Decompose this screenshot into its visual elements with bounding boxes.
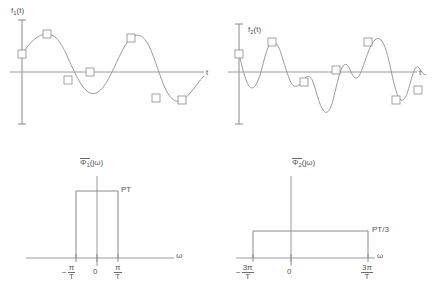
- f1-sample-marker: [43, 30, 51, 38]
- phi2-pos-den: T: [365, 273, 370, 281]
- phi2-spectrum: Φ2(jω) ω PT/3 − 3π T 0 3π T: [220, 150, 439, 298]
- phi1-canvas: [0, 150, 220, 298]
- phi1-tick-label-negative: − π T: [62, 264, 75, 281]
- f2-sample-marker: [392, 96, 400, 104]
- f1-sample-marker: [178, 96, 186, 104]
- phi2-tick-label-zero: 0: [287, 267, 291, 276]
- phi1-amplitude-label: PT: [121, 186, 131, 194]
- f2-canvas: [220, 0, 439, 150]
- phi2-amplitude-label: PT/3: [372, 226, 389, 234]
- f2-sample-marker: [414, 86, 422, 94]
- f2-sample-marker: [332, 66, 340, 74]
- f1-axis-label: f1(t): [11, 7, 24, 16]
- phi2-tick-label-negative: − 3π T: [236, 264, 254, 281]
- phi1-omega-axis-label: ω: [176, 252, 182, 260]
- phi2-title: Φ2(jω): [292, 158, 315, 168]
- f1-sample-marker: [64, 76, 72, 84]
- f1-sample-marker: [86, 68, 94, 76]
- f2-sample-marker: [235, 50, 243, 58]
- phi1-title: Φ1(jω): [80, 158, 103, 168]
- phi1-tick-label-zero: 0: [93, 267, 97, 276]
- f1-sample-marker: [18, 50, 26, 58]
- phi1-pos-den: T: [115, 273, 120, 281]
- f1-canvas: [0, 0, 220, 150]
- f1-curve: [22, 34, 204, 102]
- phi2-rect: [253, 231, 368, 258]
- f2-time-plot: f2(t) t: [220, 0, 439, 150]
- f2-sample-marker: [364, 38, 372, 46]
- phi1-neg-den: T: [69, 273, 74, 281]
- phi2-neg-den: T: [245, 273, 250, 281]
- f2-sample-marker: [268, 38, 276, 46]
- phi2-omega-axis-label: ω: [377, 252, 383, 260]
- f2-t-axis-label: t: [419, 69, 421, 77]
- f2-axis-label: f2(t): [248, 26, 261, 35]
- phi1-tick-label-positive: π T: [114, 264, 122, 281]
- f1-time-plot: f1(t) t: [0, 0, 220, 150]
- phi2-tick-label-positive: 3π T: [361, 264, 373, 281]
- f1-t-axis-label: t: [206, 69, 208, 77]
- f2-sample-marker: [300, 78, 308, 86]
- f1-sample-marker: [127, 34, 135, 42]
- f1-sample-marker: [152, 94, 160, 102]
- phi1-spectrum: Φ1(jω) ω PT − π T 0 π T: [0, 150, 220, 298]
